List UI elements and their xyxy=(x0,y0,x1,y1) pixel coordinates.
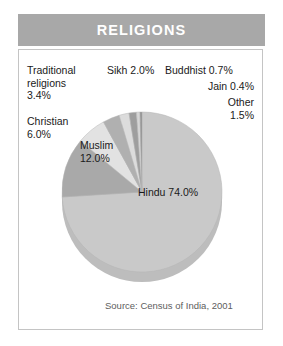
page-title: RELIGIONS xyxy=(97,22,187,38)
chart-title-banner: RELIGIONS xyxy=(18,14,265,46)
slice-label-buddhist: Buddhist 0.7% xyxy=(165,64,255,77)
religions-pie-figure: RELIGIONS Traditional religions 3.4% Sik… xyxy=(0,0,283,346)
slice-label-hindu: Hindu 74.0% xyxy=(138,186,230,199)
slice-label-sikh: Sikh 2.0% xyxy=(107,64,169,77)
slice-label-other: Other 1.5% xyxy=(196,96,254,121)
source-note: Source: Census of India, 2001 xyxy=(105,300,253,311)
slice-label-jain: Jain 0.4% xyxy=(160,80,254,93)
slice-label-traditional-religions: Traditional religions 3.4% xyxy=(27,64,101,102)
slice-label-muslim: Muslim 12.0% xyxy=(80,139,140,164)
slice-label-christian: Christian 6.0% xyxy=(27,115,97,140)
